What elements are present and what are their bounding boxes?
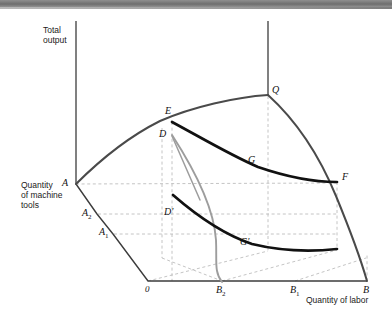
total-output-label-line1: Total <box>43 25 61 35</box>
point-label-A1-sub: 1 <box>105 232 109 240</box>
point-label-B2-sub: 2 <box>222 290 226 298</box>
origin-label: 0 <box>145 284 150 295</box>
machine-tools-label-line3: tools <box>21 200 39 210</box>
total-output-axis-label: Totaloutput <box>43 25 67 45</box>
figure-root: Totaloutput Quantityof machinetools Quan… <box>0 0 392 324</box>
point-label-B2: B2 <box>216 284 226 298</box>
guide-A-to-F <box>76 183 337 184</box>
guide-diag-B2-F <box>222 250 337 281</box>
point-label-B: B <box>363 284 369 296</box>
machine-tools-label-line1: Quantity <box>21 180 53 190</box>
point-label-A2: A2 <box>82 207 92 221</box>
machine-tools-axis-label: Quantityof machinetools <box>21 180 63 210</box>
point-label-A1: A1 <box>99 226 109 240</box>
curve-contour-DpGp <box>173 195 337 250</box>
total-output-label-line2: output <box>43 35 67 45</box>
point-label-G-prime: G′ <box>240 236 249 248</box>
point-label-A: A <box>62 177 68 189</box>
point-label-B1-sub: 1 <box>296 290 300 298</box>
base-plane-outline <box>76 184 367 281</box>
guide-diag-origin-Q <box>148 251 268 281</box>
point-label-D-prime: D′ <box>164 206 173 218</box>
point-label-G: G <box>248 154 255 166</box>
point-label-Q: Q <box>272 84 279 96</box>
curve-ridge-D-to-B2 <box>172 135 222 282</box>
dashed-guides <box>76 96 366 281</box>
machine-tools-label-line2: of machine <box>21 190 63 200</box>
guide-diag-left-B2 <box>162 258 222 281</box>
point-label-E: E <box>165 105 171 117</box>
point-label-B1: B1 <box>290 284 300 298</box>
diagram-canvas <box>0 0 392 324</box>
curve-contour-EGF <box>172 122 337 182</box>
curve-right-boundary-QFB <box>268 95 367 281</box>
labor-axis-label: Quantity of labor <box>306 295 368 305</box>
guide-diag-B1-B <box>295 258 366 281</box>
point-label-F: F <box>342 171 348 183</box>
ray-D-gray <box>172 136 200 200</box>
point-label-D: D <box>159 128 166 140</box>
point-label-A2-sub: 2 <box>88 213 92 221</box>
